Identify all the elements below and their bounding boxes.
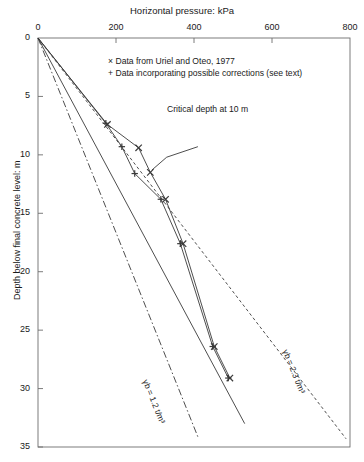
y-tick-0: 0 xyxy=(8,32,30,42)
legend-item-corrections: + Data incorporating possible correction… xyxy=(108,68,302,78)
data-point-x-1 xyxy=(135,145,141,151)
series-line-1 xyxy=(38,38,228,378)
data-series xyxy=(38,38,233,381)
hydrostatic-gamma-1.2 xyxy=(38,38,199,439)
y-tick-25: 25 xyxy=(8,324,30,334)
x-tick-800: 800 xyxy=(330,22,364,32)
x-tick-200: 200 xyxy=(96,22,136,32)
y-tick-30: 30 xyxy=(8,383,30,393)
data-point-x-2 xyxy=(147,169,153,175)
legend-label-corrections: Data incorporating possible corrections … xyxy=(115,68,302,78)
x-tick-600: 600 xyxy=(252,22,292,32)
legend-marker-plus: + xyxy=(108,68,113,78)
y-tick-5: 5 xyxy=(8,90,30,100)
series-line-0 xyxy=(38,38,230,378)
data-point-+-6 xyxy=(225,375,231,381)
legend-label-uriel-oteo: Data from Uriel and Oteo, 1977 xyxy=(115,56,234,66)
legend-marker-x: × xyxy=(108,56,113,66)
annotation-critical-depth: Critical depth at 10 m xyxy=(167,104,248,114)
x-tick-400: 400 xyxy=(174,22,214,32)
legend-item-uriel-oteo: × Data from Uriel and Oteo, 1977 xyxy=(108,56,235,66)
figure: Horizontal pressure: kPa 0200400600800 0… xyxy=(0,0,364,462)
data-point-+-1 xyxy=(119,143,125,149)
envelope-solid xyxy=(38,38,245,424)
y-tick-10: 10 xyxy=(8,149,30,159)
y-tick-35: 35 xyxy=(8,441,30,451)
x-tick-0: 0 xyxy=(18,22,58,32)
annotation-leader-line xyxy=(152,147,198,170)
leader-critical-depth xyxy=(152,147,198,170)
y-axis-label: Depth below final concrete level: m xyxy=(12,160,22,300)
